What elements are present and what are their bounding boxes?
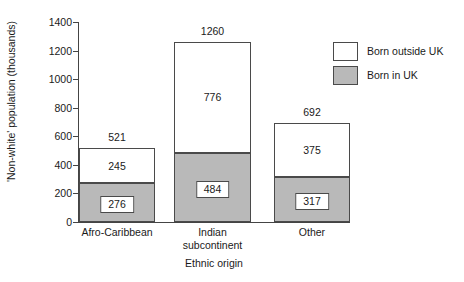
y-tick-label: 600 bbox=[38, 131, 72, 142]
y-tick-label: 1000 bbox=[38, 74, 72, 85]
bar-value-born-outside-uk: 245 bbox=[108, 161, 126, 172]
legend-item-born-outside-uk: Born outside UK bbox=[333, 41, 443, 61]
x-axis-line bbox=[78, 222, 350, 223]
bar-value-born-in-uk: 484 bbox=[196, 181, 230, 198]
bar-value-born-outside-uk: 375 bbox=[303, 145, 321, 156]
bar-3: 375317 bbox=[274, 123, 350, 222]
legend: Born outside UK Born in UK bbox=[333, 41, 443, 89]
y-axis-title: 'Non-white' population (thousands) bbox=[6, 17, 17, 187]
y-tick-label: 400 bbox=[38, 160, 72, 171]
bar-segment-born-in-uk: 484 bbox=[174, 153, 251, 222]
bar-value-born-in-uk: 276 bbox=[100, 196, 134, 213]
legend-label-born-in-uk: Born in UK bbox=[367, 70, 418, 81]
y-tick-label: 200 bbox=[38, 188, 72, 199]
bar-2: 776484 bbox=[174, 42, 251, 222]
y-tick-mark bbox=[73, 165, 78, 166]
bar-segment-born-in-uk: 276 bbox=[79, 183, 155, 222]
y-tick-mark bbox=[73, 136, 78, 137]
bar-total-label: 1260 bbox=[201, 26, 224, 37]
y-tick-label: 1200 bbox=[38, 46, 72, 57]
y-tick-label: 800 bbox=[38, 103, 72, 114]
bar-1: 245276 bbox=[79, 148, 155, 222]
bar-segment-born-outside-uk: 245 bbox=[79, 148, 155, 183]
legend-item-born-in-uk: Born in UK bbox=[333, 65, 443, 85]
stacked-bar-chart: 'Non-white' population (thousands) 02004… bbox=[0, 0, 464, 282]
x-axis-title: Ethnic origin bbox=[154, 258, 274, 269]
y-tick-mark bbox=[73, 193, 78, 194]
y-tick-mark bbox=[73, 108, 78, 109]
bar-total-label: 521 bbox=[108, 132, 126, 143]
y-tick-label: 1400 bbox=[38, 17, 72, 28]
legend-swatch-born-in-uk bbox=[333, 66, 358, 85]
y-tick-mark bbox=[73, 22, 78, 23]
bar-segment-born-outside-uk: 776 bbox=[174, 42, 251, 153]
bar-total-label: 692 bbox=[303, 107, 321, 118]
bar-value-born-in-uk: 317 bbox=[295, 193, 329, 210]
y-tick-mark bbox=[73, 79, 78, 80]
bar-segment-born-outside-uk: 375 bbox=[274, 123, 350, 177]
bar-segment-born-in-uk: 317 bbox=[274, 177, 350, 222]
bar-value-born-outside-uk: 776 bbox=[204, 92, 222, 103]
y-tick-mark bbox=[73, 51, 78, 52]
legend-swatch-born-outside-uk bbox=[333, 42, 358, 61]
x-category-label-3: Other bbox=[252, 226, 372, 239]
legend-label-born-outside-uk: Born outside UK bbox=[367, 46, 443, 57]
y-tick-mark bbox=[73, 222, 78, 223]
